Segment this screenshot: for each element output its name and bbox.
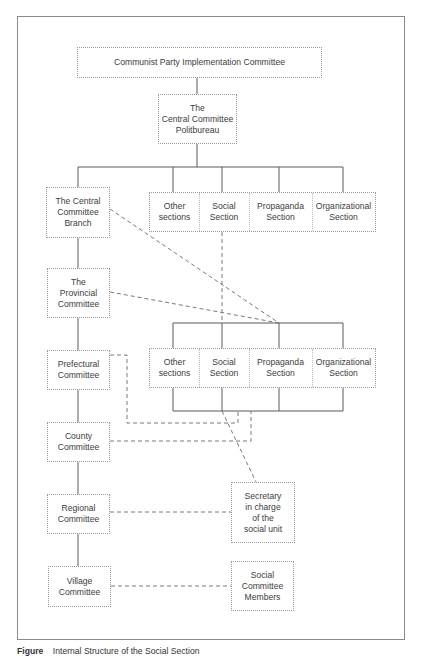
village-committee-box: Village Committee (48, 566, 111, 607)
caption-label: Figure (17, 646, 43, 656)
dashed-connector (110, 411, 251, 441)
lower-other-sections: Other sections (150, 349, 199, 387)
figure-caption: Figure Internal Structure of the Social … (17, 646, 199, 656)
provincial-committee-box: The Provincial Committee (47, 268, 110, 318)
social-committee-members-box: Social Committee Members (231, 561, 294, 611)
prefectural-committee-box: Prefectural Committee (47, 350, 110, 390)
politbureau-box: The Central Committee Politbureau (158, 94, 237, 144)
lower-sections-group: Other sections Social Section Propaganda… (149, 348, 376, 388)
dashed-connector (222, 411, 256, 482)
regional-committee-box: Regional Committee (47, 494, 110, 534)
lower-social-section: Social Section (199, 349, 249, 387)
dashed-connector (110, 292, 279, 323)
upper-other-sections: Other sections (150, 193, 199, 231)
county-committee-box: County Committee (47, 422, 110, 462)
upper-sections-group: Other sections Social Section Propaganda… (149, 192, 376, 232)
implementation-committee-box: Communist Party Implementation Committee (77, 47, 322, 78)
lower-propaganda-section: Propaganda Section (249, 349, 312, 387)
central-committee-branch-box: The Central Committee Branch (46, 187, 110, 238)
lower-organizational-section: Organizational Section (312, 349, 375, 387)
caption-text: Internal Structure of the Social Section (53, 646, 200, 656)
upper-social-section: Social Section (199, 193, 249, 231)
upper-organizational-section: Organizational Section (312, 193, 375, 231)
secretary-social-unit-box: Secretary in charge of the social unit (231, 482, 295, 543)
upper-propaganda-section: Propaganda Section (249, 193, 312, 231)
